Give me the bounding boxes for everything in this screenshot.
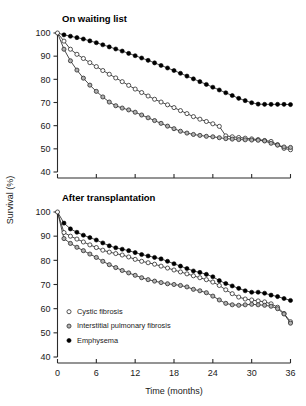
data-point — [178, 71, 182, 75]
data-point — [204, 291, 208, 295]
data-point — [146, 254, 150, 258]
data-point — [172, 268, 176, 272]
data-point — [230, 292, 234, 296]
x-axis-title: Time (months) — [145, 386, 203, 396]
data-point — [88, 243, 92, 247]
legend-label: Interstitial pulmonary fibrosis — [77, 321, 171, 330]
y-axis-title: Survival (%) — [5, 176, 15, 225]
data-point — [211, 275, 215, 279]
data-point — [120, 253, 124, 257]
data-point — [140, 113, 144, 117]
data-point — [153, 97, 157, 101]
data-point — [191, 287, 195, 291]
data-point — [101, 95, 105, 99]
data-point — [114, 266, 118, 270]
data-point — [62, 221, 66, 225]
data-point — [250, 101, 254, 105]
data-point — [94, 255, 98, 259]
data-point — [133, 251, 137, 255]
data-point — [276, 143, 280, 147]
data-point — [75, 245, 79, 249]
data-point — [94, 245, 98, 249]
data-point — [81, 240, 85, 244]
data-point — [198, 276, 202, 280]
data-point — [140, 252, 144, 256]
y-tick-label: 80 — [40, 256, 50, 266]
data-point — [217, 279, 221, 283]
data-point — [288, 103, 292, 107]
data-point — [211, 280, 215, 284]
data-point — [243, 297, 247, 301]
data-point — [165, 66, 169, 70]
data-point — [256, 290, 260, 294]
data-point — [198, 117, 202, 121]
data-point — [282, 145, 286, 149]
data-point — [204, 272, 208, 276]
y-tick-label: 60 — [40, 304, 50, 314]
data-point — [178, 283, 182, 287]
data-point — [146, 278, 150, 282]
data-point — [204, 134, 208, 138]
data-point — [114, 104, 118, 108]
x-tick-label: 0 — [55, 368, 60, 378]
data-point — [178, 109, 182, 113]
data-point — [282, 312, 286, 316]
data-point — [120, 268, 124, 272]
data-point — [256, 138, 260, 142]
data-point — [237, 286, 241, 290]
data-point — [204, 82, 208, 86]
data-point — [230, 303, 234, 307]
data-point — [133, 110, 137, 114]
data-point — [133, 87, 137, 91]
data-point — [140, 90, 144, 94]
data-point — [159, 121, 163, 125]
data-point — [172, 106, 176, 110]
panel-title: After transplantation — [62, 192, 156, 203]
data-point — [140, 56, 144, 60]
data-point — [120, 247, 124, 251]
data-point — [62, 39, 66, 43]
data-point — [230, 137, 234, 141]
data-point — [101, 241, 105, 245]
figure-container: On waiting list405060708090100After tran… — [0, 0, 306, 406]
data-point — [165, 259, 169, 263]
data-point — [165, 103, 169, 107]
x-tick-label: 36 — [285, 368, 295, 378]
data-point — [88, 61, 92, 65]
data-point — [75, 68, 79, 72]
data-point — [191, 77, 195, 81]
data-point — [159, 281, 163, 285]
data-point — [159, 257, 163, 261]
data-point — [263, 102, 267, 106]
y-tick-label: 40 — [40, 352, 50, 362]
data-point — [107, 263, 111, 267]
data-point — [62, 230, 66, 234]
data-point — [263, 291, 267, 295]
data-point — [256, 102, 260, 106]
y-tick-label: 70 — [40, 280, 50, 290]
data-point — [101, 43, 105, 47]
data-point — [62, 237, 66, 241]
data-point — [127, 255, 131, 259]
data-point — [217, 136, 221, 140]
series-line — [58, 212, 291, 300]
data-point — [243, 303, 247, 307]
data-point — [107, 72, 111, 76]
data-point — [185, 74, 189, 78]
data-point — [178, 129, 182, 133]
data-point — [146, 58, 150, 62]
data-point — [94, 41, 98, 45]
data-point — [256, 303, 260, 307]
data-point — [237, 295, 241, 299]
data-point — [165, 266, 169, 270]
data-point — [269, 102, 273, 106]
x-tick-label: 12 — [130, 368, 140, 378]
data-point — [55, 31, 59, 35]
data-point — [198, 289, 202, 293]
data-point — [172, 68, 176, 72]
legend: Cystic fibrosisInterstitial pulmonary fi… — [67, 307, 171, 345]
data-point — [178, 264, 182, 268]
data-point — [282, 296, 286, 300]
data-point — [172, 262, 176, 266]
data-point — [88, 83, 92, 87]
